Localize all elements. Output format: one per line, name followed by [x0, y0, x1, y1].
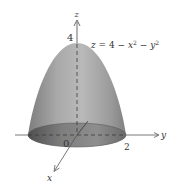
z-tick-4: 4	[67, 32, 73, 43]
y-tick-2: 2	[124, 142, 130, 152]
x-axis-arrow-icon	[54, 165, 60, 172]
paraboloid-figure: z 4 z = 4 − x2 − y2 0 2 y x	[0, 0, 175, 190]
equation-label: z = 4 − x2 − y2	[90, 39, 159, 51]
origin-label: 0	[63, 138, 69, 149]
z-axis-label: z	[74, 10, 80, 19]
x-axis-label: x	[47, 173, 52, 183]
y-axis-label: y	[160, 130, 167, 140]
